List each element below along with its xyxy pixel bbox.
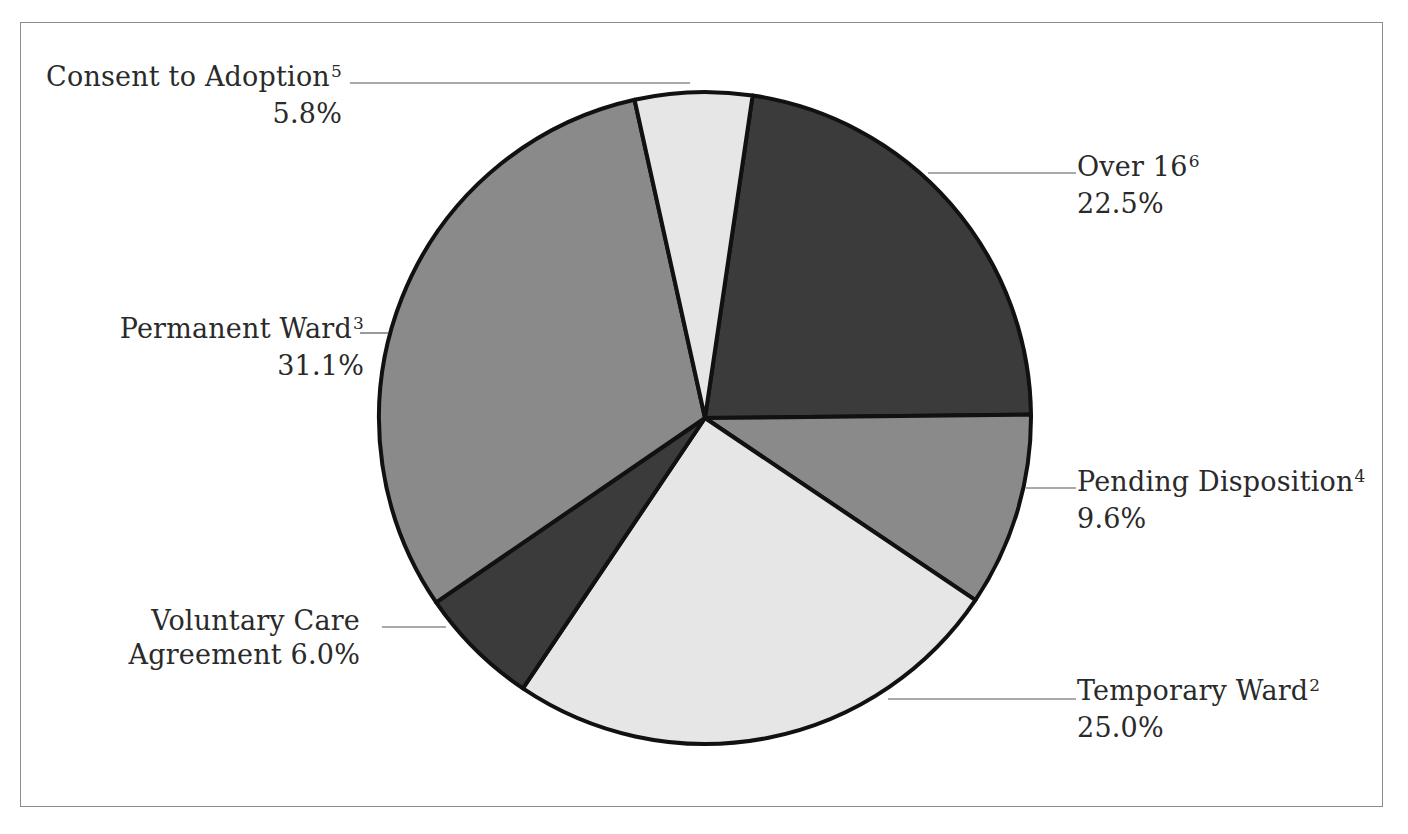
- pie-slice-over-16: [705, 96, 1031, 419]
- label-percent: 5.8%: [30, 97, 342, 131]
- label-percent: 25.0%: [1077, 711, 1320, 745]
- label-percent: Agreement 6.0%: [60, 638, 360, 672]
- label-text: Consent to Adoption: [46, 61, 330, 92]
- footnote-marker: 6: [1189, 151, 1200, 171]
- label-pending-disposition: Pending Disposition4 9.6%: [1077, 465, 1366, 536]
- label-text: Pending Disposition: [1077, 466, 1354, 497]
- label-over-16: Over 166 22.5%: [1077, 150, 1200, 221]
- label-text: Temporary Ward: [1077, 675, 1308, 706]
- label-permanent-ward: Permanent Ward3 31.1%: [60, 312, 364, 383]
- pie-slices: [379, 92, 1031, 744]
- footnote-marker: 2: [1309, 675, 1320, 695]
- footnote-marker: 3: [353, 313, 364, 333]
- label-temporary-ward: Temporary Ward2 25.0%: [1077, 674, 1320, 745]
- label-text: Over 16: [1077, 151, 1188, 182]
- label-percent: 9.6%: [1077, 502, 1366, 536]
- label-consent-to-adoption: Consent to Adoption5 5.8%: [30, 60, 342, 131]
- label-percent: 22.5%: [1077, 187, 1200, 221]
- footnote-marker: 5: [331, 61, 342, 81]
- label-text: Voluntary Care: [60, 604, 360, 638]
- label-voluntary-care-agreement: Voluntary Care Agreement 6.0%: [60, 604, 360, 672]
- footnote-marker: 4: [1355, 466, 1366, 486]
- label-percent: 31.1%: [60, 349, 364, 383]
- label-text: Permanent Ward: [120, 313, 352, 344]
